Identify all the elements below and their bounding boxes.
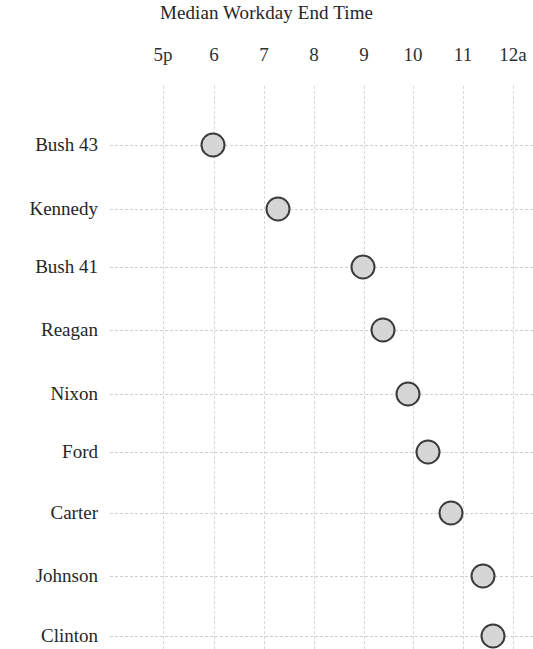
data-point[interactable] [351, 255, 376, 280]
horizontal-gridline [110, 330, 533, 331]
data-point[interactable] [416, 440, 441, 465]
y-category-label: Carter [0, 502, 98, 524]
vertical-gridline [364, 86, 365, 649]
data-point[interactable] [396, 382, 421, 407]
y-category-label: Nixon [0, 383, 98, 405]
x-tick-label: 7 [259, 44, 269, 66]
y-category-label: Reagan [0, 319, 98, 341]
y-category-label: Bush 41 [0, 256, 98, 278]
y-category-label: Bush 43 [0, 134, 98, 156]
horizontal-gridline [110, 394, 533, 395]
vertical-gridline [463, 86, 464, 649]
chart-container: Median Workday End Time 5p6789101112a Bu… [0, 0, 533, 649]
vertical-gridline [413, 86, 414, 649]
vertical-gridline [163, 86, 164, 649]
data-point[interactable] [266, 197, 291, 222]
vertical-gridline [214, 86, 215, 649]
data-point[interactable] [371, 318, 396, 343]
x-tick-label: 8 [309, 44, 319, 66]
horizontal-gridline [110, 145, 533, 146]
horizontal-gridline [110, 636, 533, 637]
data-point[interactable] [471, 564, 496, 589]
y-category-label: Ford [0, 441, 98, 463]
y-category-label: Johnson [0, 565, 98, 587]
horizontal-gridline [110, 513, 533, 514]
x-axis-tick-labels: 5p6789101112a [0, 44, 533, 70]
y-category-label: Kennedy [0, 198, 98, 220]
x-tick-label: 10 [404, 44, 423, 66]
x-tick-label: 5p [154, 44, 173, 66]
horizontal-gridline [110, 209, 533, 210]
x-tick-label: 9 [359, 44, 369, 66]
vertical-gridline [513, 86, 514, 649]
x-tick-label: 6 [209, 44, 219, 66]
data-point[interactable] [201, 133, 226, 158]
x-tick-label: 12a [499, 44, 526, 66]
vertical-gridline [264, 86, 265, 649]
y-category-label: Clinton [0, 625, 98, 647]
x-tick-label: 11 [454, 44, 472, 66]
data-point[interactable] [438, 501, 463, 526]
vertical-gridline [314, 86, 315, 649]
horizontal-gridline [110, 452, 533, 453]
horizontal-gridline [110, 267, 533, 268]
data-point[interactable] [481, 624, 506, 649]
